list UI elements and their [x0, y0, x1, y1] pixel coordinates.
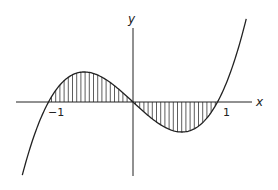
x-axis-label: x [255, 95, 264, 109]
cubic-function-diagram: y x −1 1 [0, 0, 278, 190]
tick-label-1: 1 [223, 106, 230, 119]
y-axis-label: y [127, 12, 136, 26]
tick-label-neg1: −1 [48, 106, 64, 119]
